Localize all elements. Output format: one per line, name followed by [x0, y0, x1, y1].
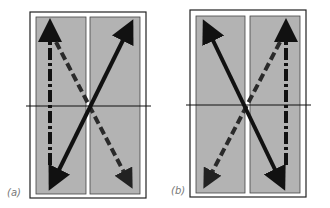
panel-label-b: (b): [171, 185, 185, 196]
panel-b: (b): [171, 10, 311, 197]
panel-label-a: (a): [7, 187, 21, 198]
panel-a: (a): [7, 12, 151, 198]
diagram-canvas: (a) (b): [0, 0, 330, 208]
